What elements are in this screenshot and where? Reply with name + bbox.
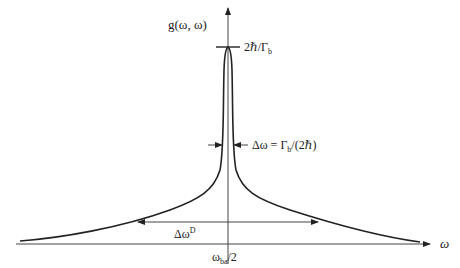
peak-label: 2ℏ/Γb xyxy=(244,41,272,56)
homogeneous-width-label: Δω = Γb/(2ℏ) xyxy=(252,139,316,154)
center-tick-label: ωba/2 xyxy=(212,251,237,266)
doppler-width-label: ΔωD xyxy=(174,227,195,240)
line-shape-diagram: g(ω, ω) 2ℏ/Γb Δω = Γb/(2ℏ) ΔωD ωba/2 ω xyxy=(0,0,460,268)
y-axis-label: g(ω, ω) xyxy=(168,18,207,31)
x-axis-label: ω xyxy=(440,237,449,250)
